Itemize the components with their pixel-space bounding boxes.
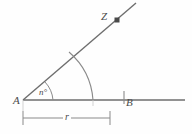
z-point-marker xyxy=(115,18,120,23)
construction-arc xyxy=(69,52,93,100)
radius-label-r: r xyxy=(63,112,71,122)
angle-label-n-degrees: n° xyxy=(39,88,47,97)
point-label-b: B xyxy=(126,97,133,108)
vertex-label-a: A xyxy=(13,95,20,106)
point-label-z: Z xyxy=(101,11,107,22)
geometry-canvas xyxy=(0,0,192,134)
geometry-diagram: A B Z n° r xyxy=(0,0,192,134)
